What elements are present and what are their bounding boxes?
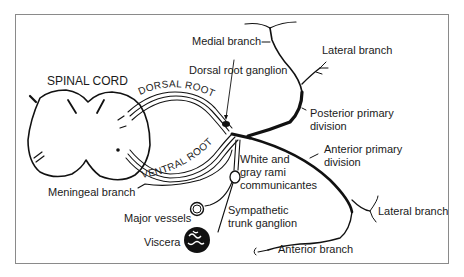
label-sympathetic-2: trunk ganglion	[228, 217, 297, 229]
label-anterior-primary-2: division	[324, 156, 361, 168]
label-medial-branch: Medial branch	[192, 35, 261, 47]
label-spinal-cord: SPINAL CORD	[47, 74, 128, 88]
dorsal-root-ganglion	[222, 121, 230, 127]
label-viscera: Viscera	[144, 236, 181, 248]
viscera	[184, 227, 210, 253]
spinal-cord	[28, 90, 150, 180]
major-vessels	[191, 203, 204, 216]
label-posterior-primary-2: division	[310, 120, 347, 132]
spinal-nerve-diagram: SPINAL CORD DORSAL ROOT VENTRAL ROOT Med…	[0, 0, 464, 277]
label-lateral-branch-anterior: Lateral branch	[378, 205, 448, 217]
label-major-vessels: Major vessels	[124, 212, 192, 224]
label-rami-1: White and	[240, 153, 290, 165]
label-rami-3: communicantes	[240, 179, 318, 191]
label-dorsal-root-ganglion: Dorsal root ganglion	[189, 64, 287, 76]
label-lateral-branch-posterior: Lateral branch	[322, 44, 392, 56]
label-sympathetic-1: Sympathetic	[228, 204, 289, 216]
label-meningeal-branch: Meningeal branch	[48, 186, 135, 198]
sympathetic-trunk-ganglion	[230, 171, 240, 183]
label-posterior-primary-1: Posterior primary	[310, 107, 394, 119]
vessel-branch	[205, 182, 232, 206]
label-anterior-primary-1: Anterior primary	[324, 143, 403, 155]
label-rami-2: gray rami	[240, 166, 286, 178]
ventral-horn-marker	[116, 148, 120, 152]
label-anterior-branch: Anterior branch	[278, 243, 353, 255]
